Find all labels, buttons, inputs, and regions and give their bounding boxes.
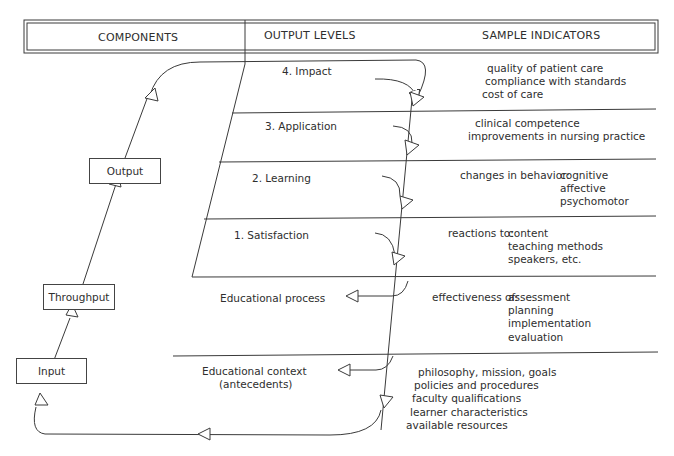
indicator-item: compliance with standards	[482, 75, 626, 88]
component-input-box: Input	[16, 358, 87, 384]
component-throughput-box: Throughput	[43, 284, 115, 310]
indicator-item: available resources	[405, 419, 556, 432]
indicators-learning-prefix: changes in behavior:	[460, 169, 570, 182]
indicator-item: planning	[508, 304, 591, 317]
indicator-item: learner characteristics	[405, 406, 556, 419]
indicators-application: clinical competence improvements in nurs…	[468, 117, 645, 143]
indicator-item: implementation	[508, 317, 591, 330]
indicators-impact: quality of patient care compliance with …	[482, 62, 626, 102]
indicators-learning: cognitive affective psychomotor	[560, 169, 629, 209]
indicator-item: faculty qualifications	[405, 392, 556, 405]
indicators-context: philosophy, mission, goals policies and …	[405, 366, 556, 432]
indicator-item: quality of patient care	[482, 62, 626, 75]
indicator-item: psychomotor	[560, 195, 629, 208]
indicators-satisfaction: content teaching methods speakers, etc.	[508, 227, 603, 267]
educational-context-sublabel: (antecedents)	[219, 378, 292, 391]
component-input-label: Input	[38, 365, 65, 377]
header-sample-indicators: SAMPLE INDICATORS	[482, 29, 600, 42]
indicators-process: assessment planning implementation evalu…	[508, 291, 591, 344]
indicator-item: policies and procedures	[405, 379, 556, 392]
indicator-item: content	[508, 227, 603, 240]
level-satisfaction: 1. Satisfaction	[234, 229, 309, 242]
indicators-satisfaction-prefix: reactions to:	[448, 227, 514, 240]
indicator-item: evaluation	[508, 331, 591, 344]
component-output-label: Output	[107, 165, 143, 177]
level-learning: 2. Learning	[252, 172, 311, 185]
indicator-item: teaching methods	[508, 240, 603, 253]
level-impact: 4. Impact	[282, 65, 332, 78]
level-application: 3. Application	[265, 120, 337, 133]
indicators-process-prefix: effectiveness of:	[432, 291, 518, 304]
indicator-item: improvements in nursing practice	[468, 130, 645, 143]
indicator-item: cognitive	[560, 169, 629, 182]
component-throughput-label: Throughput	[49, 291, 110, 303]
component-output-box: Output	[89, 158, 161, 184]
indicator-item: assessment	[508, 291, 591, 304]
indicator-item: speakers, etc.	[508, 253, 603, 266]
indicator-item: clinical competence	[468, 117, 645, 130]
header-components: COMPONENTS	[98, 31, 178, 44]
educational-process-label: Educational process	[220, 292, 325, 305]
header-output-levels: OUTPUT LEVELS	[264, 29, 356, 42]
educational-context-label: Educational context	[202, 365, 307, 378]
indicator-item: affective	[560, 182, 629, 195]
indicator-item: cost of care	[482, 88, 626, 101]
indicator-item: philosophy, mission, goals	[405, 366, 556, 379]
